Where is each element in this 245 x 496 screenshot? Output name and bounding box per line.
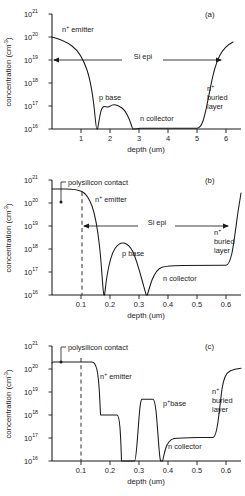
x-tick-label: 4	[166, 134, 170, 143]
y-tick-label: 1020	[24, 363, 38, 373]
annotation-n-emitter: n+ emitter	[62, 24, 94, 34]
annotation-buried-layer-l2: buried	[214, 237, 235, 246]
annotation-n-collector: n collector	[168, 442, 202, 451]
y-axis-title: concentration (cm-3)	[3, 37, 13, 107]
x-tick-label: 6	[224, 134, 228, 143]
y-tick-label: 1021	[24, 340, 38, 350]
x-tick-label: 0.1	[76, 300, 86, 309]
x-tick-label: 2	[108, 134, 112, 143]
annotation-buried-layer: n+	[212, 386, 219, 396]
x-tick-label: 0.3	[134, 300, 144, 309]
annotation-si-epi: Si epi	[134, 52, 153, 61]
x-tick-label: 5	[195, 134, 199, 143]
x-tick-label: 3	[137, 134, 141, 143]
x-tick-label: 0.3	[134, 466, 144, 475]
x-axis-title: depth (um)	[127, 477, 165, 486]
y-tick-label: 1021	[24, 8, 38, 18]
x-axis-title: depth (um)	[127, 311, 165, 320]
panel-label-b: (b)	[205, 176, 215, 185]
annotation-buried-layer: n+	[207, 83, 214, 93]
x-tick-label: 0.2	[105, 300, 115, 309]
x-tick-label: 0.5	[192, 300, 202, 309]
panel-label-a: (a)	[205, 10, 215, 19]
y-axis-title: concentration (cm-3)	[3, 203, 13, 273]
annotation-n-emitter: n+ emitter	[95, 194, 127, 204]
x-tick-label: 0.6	[221, 300, 231, 309]
y-tick-label: 1019	[24, 220, 38, 230]
doping-curve-b	[52, 189, 241, 295]
x-tick-label: 0.4	[163, 300, 173, 309]
y-tick-label: 1018	[24, 409, 38, 419]
annotation-buried-layer-l2: buried	[212, 396, 233, 405]
annotation-n-collector: n collector	[140, 114, 174, 123]
annotation-p-base: p+base	[163, 398, 186, 408]
panel-b-plot: 1021 1020 1019 1018 1017 1016 concentrat…	[0, 166, 245, 332]
annotation-buried-layer: n+	[214, 227, 221, 237]
y-tick-label: 1016	[24, 289, 38, 299]
y-tick-label: 1017	[24, 100, 38, 110]
y-axis-title: concentration (cm-3)	[3, 369, 13, 439]
x-axis-title: depth (um)	[127, 145, 165, 154]
panel-a-plot: 1021 1020 1019 1018 1017 1016 concentrat…	[0, 0, 245, 166]
y-tick-label: 1019	[24, 54, 38, 64]
annotation-p-base: p base	[122, 249, 144, 258]
panel-c-plot: 1021 1020 1019 1018 1017 1016 concentrat…	[0, 332, 245, 496]
panel-label-c: (c)	[205, 342, 214, 351]
panel-a: 1021 1020 1019 1018 1017 1016 concentrat…	[0, 0, 245, 166]
annotation-buried-layer-l3: layer	[214, 246, 231, 255]
annotation-buried-layer-l3: layer	[212, 405, 229, 414]
annotation-buried-layer-l3: layer	[207, 102, 224, 111]
annotation-si-epi: Si epi	[148, 218, 167, 227]
annotation-n-collector: n collector	[163, 274, 197, 283]
annotation-n-emitter: n+ emitter	[100, 371, 132, 381]
x-tick-label: 1	[79, 134, 83, 143]
annotation-polysilicon-contact: polysilicon contact	[68, 343, 128, 352]
annotation-buried-layer-l2: buried	[207, 93, 228, 102]
y-tick-label: 1021	[24, 174, 38, 184]
annotation-p-base: p base	[99, 93, 121, 102]
x-tick-label: 0.2	[105, 466, 115, 475]
y-tick-label: 1019	[24, 386, 38, 396]
y-tick-label: 1017	[24, 432, 38, 442]
y-tick-label: 1020	[24, 31, 38, 41]
panel-b: 1021 1020 1019 1018 1017 1016 concentrat…	[0, 166, 245, 332]
panel-c: 1021 1020 1019 1018 1017 1016 concentrat…	[0, 332, 245, 496]
y-tick-label: 1016	[24, 455, 38, 465]
x-tick-label: 0.1	[76, 466, 86, 475]
x-tick-label: 0.6	[221, 466, 231, 475]
x-tick-label: 0.4	[163, 466, 173, 475]
y-tick-label: 1016	[24, 123, 38, 133]
x-tick-label: 0.5	[192, 466, 202, 475]
doping-profile-figure: 1021 1020 1019 1018 1017 1016 concentrat…	[0, 0, 245, 496]
y-tick-label: 1018	[24, 77, 38, 87]
annotation-polysilicon-contact: polysilicon contact	[68, 178, 128, 187]
y-tick-label: 1017	[24, 266, 38, 276]
y-tick-label: 1020	[24, 197, 38, 207]
y-tick-label: 1018	[24, 243, 38, 253]
